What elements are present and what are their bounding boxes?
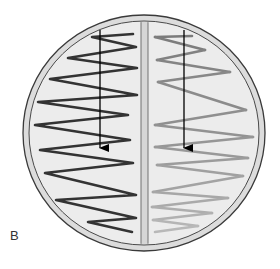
plate-divider [141,15,148,255]
petri-dish-diagram [0,0,280,269]
panel-label: B [10,228,19,243]
